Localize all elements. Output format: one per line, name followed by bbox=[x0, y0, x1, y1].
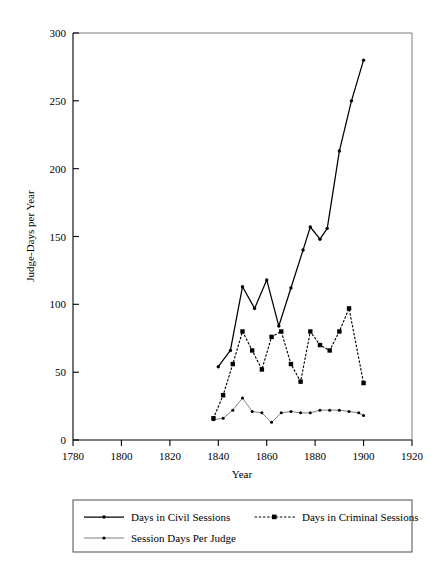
y-axis-title: Judge-Days per Year bbox=[24, 190, 36, 282]
data-point bbox=[265, 278, 268, 281]
criminal-line bbox=[213, 308, 363, 418]
plot-frame bbox=[73, 33, 412, 440]
y-tick-label-100: 100 bbox=[50, 298, 67, 310]
data-point bbox=[347, 306, 351, 310]
data-point bbox=[338, 409, 341, 412]
data-point bbox=[289, 410, 292, 413]
x-axis-ticks bbox=[73, 440, 412, 446]
data-point bbox=[231, 362, 235, 366]
data-point bbox=[318, 343, 322, 347]
x-tick-label-1900: 1900 bbox=[353, 450, 376, 462]
legend-border bbox=[73, 500, 412, 552]
y-tick-label-150: 150 bbox=[50, 231, 67, 243]
x-tick-label-1780: 1780 bbox=[62, 450, 85, 462]
legend-swatch-criminal-marker bbox=[272, 515, 277, 520]
data-point bbox=[211, 416, 215, 420]
series-days-in-criminal-sessions bbox=[211, 306, 366, 420]
data-point bbox=[309, 411, 312, 414]
data-point bbox=[251, 410, 254, 413]
data-point bbox=[362, 58, 365, 61]
data-point bbox=[309, 225, 312, 228]
data-point bbox=[338, 149, 341, 152]
legend-swatch-perjudge-marker bbox=[102, 536, 105, 539]
legend-label-civil: Days in Civil Sessions bbox=[131, 511, 230, 523]
y-tick-label-0: 0 bbox=[61, 434, 67, 446]
data-point bbox=[269, 335, 273, 339]
y-axis-tick-labels: 300 250 200 150 100 50 0 bbox=[50, 27, 67, 446]
data-point bbox=[280, 411, 283, 414]
data-point bbox=[250, 348, 254, 352]
data-point bbox=[270, 421, 273, 424]
data-point bbox=[231, 409, 234, 412]
data-point bbox=[279, 329, 283, 333]
data-point bbox=[277, 324, 280, 327]
data-point bbox=[357, 411, 360, 414]
y-tick-label-250: 250 bbox=[50, 95, 67, 107]
legend-label-criminal: Days in Criminal Sessions bbox=[302, 511, 418, 523]
y-tick-label-200: 200 bbox=[50, 163, 67, 175]
data-point bbox=[241, 396, 244, 399]
data-point bbox=[318, 409, 321, 412]
y-axis-ticks bbox=[73, 33, 79, 440]
data-point bbox=[222, 417, 225, 420]
data-point bbox=[217, 365, 220, 368]
x-tick-label-1860: 1860 bbox=[256, 450, 279, 462]
data-point bbox=[348, 410, 351, 413]
x-tick-label-1880: 1880 bbox=[304, 450, 327, 462]
data-point bbox=[221, 393, 225, 397]
legend-swatch-civil-marker bbox=[102, 515, 106, 519]
data-point bbox=[361, 381, 365, 385]
chart-legend: Days in Civil Sessions Days in Criminal … bbox=[73, 500, 418, 552]
data-point bbox=[362, 414, 365, 417]
data-point bbox=[260, 367, 264, 371]
x-tick-label-1820: 1820 bbox=[159, 450, 182, 462]
x-axis-tick-labels: 1780 1800 1820 1840 1860 1880 1900 1920 bbox=[62, 450, 424, 462]
y-tick-label-50: 50 bbox=[55, 366, 67, 378]
civil-line bbox=[218, 60, 363, 367]
data-point bbox=[328, 409, 331, 412]
data-point bbox=[337, 329, 341, 333]
data-point bbox=[298, 379, 302, 383]
data-point bbox=[289, 286, 292, 289]
data-point bbox=[301, 248, 304, 251]
data-point bbox=[240, 329, 244, 333]
series-session-days-per-judge bbox=[212, 396, 365, 423]
x-tick-label-1920: 1920 bbox=[401, 450, 424, 462]
legend-label-perjudge: Session Days Per Judge bbox=[131, 532, 236, 544]
data-point bbox=[350, 99, 353, 102]
x-axis-title: Year bbox=[232, 468, 253, 480]
x-tick-label-1800: 1800 bbox=[110, 450, 133, 462]
data-point bbox=[327, 348, 331, 352]
data-point bbox=[308, 329, 312, 333]
data-point bbox=[326, 227, 329, 230]
chart-figure: 300 250 200 150 100 50 0 1780 1800 1820 … bbox=[0, 0, 445, 578]
data-point bbox=[253, 307, 256, 310]
data-point bbox=[229, 349, 232, 352]
data-point bbox=[241, 285, 244, 288]
data-point bbox=[289, 362, 293, 366]
data-point bbox=[299, 411, 302, 414]
data-point bbox=[260, 411, 263, 414]
data-point bbox=[318, 238, 321, 241]
criminal-markers bbox=[211, 306, 366, 420]
judge-days-line-chart: 300 250 200 150 100 50 0 1780 1800 1820 … bbox=[0, 0, 445, 578]
perjudge-line bbox=[213, 398, 363, 422]
y-tick-label-300: 300 bbox=[50, 27, 67, 39]
x-tick-label-1840: 1840 bbox=[207, 450, 230, 462]
